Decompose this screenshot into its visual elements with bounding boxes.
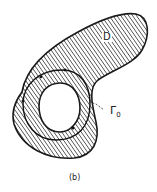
- contour-point-icon: [64, 69, 67, 72]
- contour-label: Γ0: [110, 106, 121, 120]
- region-d-shape: [13, 14, 147, 159]
- contour-label-subscript: 0: [116, 111, 120, 119]
- contour-point-icon: [71, 126, 74, 129]
- region-label: D: [102, 32, 112, 42]
- region-diagram: [0, 0, 157, 192]
- figure-caption: (b): [69, 173, 80, 183]
- contour-point-icon: [22, 100, 25, 103]
- contour-point-icon: [40, 76, 42, 78]
